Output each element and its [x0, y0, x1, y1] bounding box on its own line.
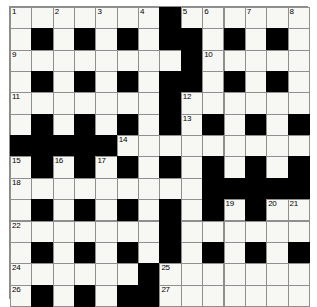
letter-cell[interactable] — [10, 114, 32, 136]
letter-cell[interactable]: 22 — [10, 221, 32, 243]
letter-cell[interactable]: 18 — [10, 178, 32, 200]
letter-cell[interactable] — [245, 263, 267, 285]
letter-cell[interactable] — [266, 156, 288, 178]
crossword-grid[interactable]: 1234567891011121314151617181920212224252… — [10, 7, 309, 300]
letter-cell[interactable] — [117, 7, 139, 29]
letter-cell[interactable] — [117, 221, 139, 243]
letter-cell[interactable]: 16 — [53, 156, 75, 178]
letter-cell[interactable] — [266, 92, 288, 114]
letter-cell[interactable] — [181, 199, 203, 221]
letter-cell[interactable] — [181, 263, 203, 285]
letter-cell[interactable] — [95, 221, 117, 243]
letter-cell[interactable] — [10, 242, 32, 264]
letter-cell[interactable] — [202, 28, 224, 50]
letter-cell[interactable]: 14 — [117, 135, 139, 157]
letter-cell[interactable] — [138, 71, 160, 93]
letter-cell[interactable] — [95, 28, 117, 50]
letter-cell[interactable] — [181, 285, 203, 307]
letter-cell[interactable] — [53, 50, 75, 72]
letter-cell[interactable]: 3 — [95, 7, 117, 29]
letter-cell[interactable]: 17 — [95, 156, 117, 178]
letter-cell[interactable] — [224, 156, 246, 178]
letter-cell[interactable] — [53, 92, 75, 114]
letter-cell[interactable]: 11 — [10, 92, 32, 114]
letter-cell[interactable] — [245, 28, 267, 50]
letter-cell[interactable] — [74, 7, 96, 29]
letter-cell[interactable]: 6 — [202, 7, 224, 29]
letter-cell[interactable]: 20 — [266, 199, 288, 221]
letter-cell[interactable]: 27 — [159, 285, 181, 307]
letter-cell[interactable] — [266, 221, 288, 243]
letter-cell[interactable] — [224, 92, 246, 114]
letter-cell[interactable] — [10, 71, 32, 93]
letter-cell[interactable] — [224, 135, 246, 157]
letter-cell[interactable]: 4 — [138, 7, 160, 29]
letter-cell[interactable] — [53, 114, 75, 136]
letter-cell[interactable] — [95, 199, 117, 221]
letter-cell[interactable]: 21 — [288, 199, 310, 221]
letter-cell[interactable]: 10 — [202, 50, 224, 72]
letter-cell[interactable] — [31, 50, 53, 72]
letter-cell[interactable] — [245, 285, 267, 307]
letter-cell[interactable] — [138, 221, 160, 243]
letter-cell[interactable] — [245, 221, 267, 243]
letter-cell[interactable]: 7 — [245, 7, 267, 29]
letter-cell[interactable] — [31, 263, 53, 285]
letter-cell[interactable] — [53, 178, 75, 200]
letter-cell[interactable] — [224, 285, 246, 307]
letter-cell[interactable]: 24 — [10, 263, 32, 285]
letter-cell[interactable] — [288, 263, 310, 285]
letter-cell[interactable] — [224, 263, 246, 285]
letter-cell[interactable] — [138, 28, 160, 50]
letter-cell[interactable] — [138, 242, 160, 264]
letter-cell[interactable] — [266, 7, 288, 29]
letter-cell[interactable] — [31, 221, 53, 243]
letter-cell[interactable] — [159, 178, 181, 200]
letter-cell[interactable] — [117, 263, 139, 285]
letter-cell[interactable] — [266, 242, 288, 264]
letter-cell[interactable] — [74, 178, 96, 200]
letter-cell[interactable]: 26 — [10, 285, 32, 307]
letter-cell[interactable] — [202, 263, 224, 285]
letter-cell[interactable]: 5 — [181, 7, 203, 29]
letter-cell[interactable]: 8 — [288, 7, 310, 29]
letter-cell[interactable] — [31, 92, 53, 114]
letter-cell[interactable] — [74, 263, 96, 285]
letter-cell[interactable] — [95, 263, 117, 285]
letter-cell[interactable] — [202, 221, 224, 243]
letter-cell[interactable] — [53, 263, 75, 285]
letter-cell[interactable]: 13 — [181, 114, 203, 136]
letter-cell[interactable] — [224, 242, 246, 264]
letter-cell[interactable] — [74, 221, 96, 243]
letter-cell[interactable] — [266, 50, 288, 72]
letter-cell[interactable] — [288, 221, 310, 243]
letter-cell[interactable] — [53, 242, 75, 264]
letter-cell[interactable] — [138, 178, 160, 200]
letter-cell[interactable] — [224, 221, 246, 243]
letter-cell[interactable]: 25 — [159, 263, 181, 285]
letter-cell[interactable] — [95, 178, 117, 200]
letter-cell[interactable] — [202, 92, 224, 114]
letter-cell[interactable] — [288, 50, 310, 72]
letter-cell[interactable] — [181, 178, 203, 200]
letter-cell[interactable] — [224, 114, 246, 136]
letter-cell[interactable] — [10, 199, 32, 221]
letter-cell[interactable]: 9 — [10, 50, 32, 72]
letter-cell[interactable] — [245, 50, 267, 72]
letter-cell[interactable] — [288, 135, 310, 157]
letter-cell[interactable] — [266, 285, 288, 307]
letter-cell[interactable] — [138, 50, 160, 72]
letter-cell[interactable] — [266, 114, 288, 136]
letter-cell[interactable] — [138, 156, 160, 178]
letter-cell[interactable] — [181, 156, 203, 178]
letter-cell[interactable] — [74, 50, 96, 72]
letter-cell[interactable] — [288, 28, 310, 50]
letter-cell[interactable]: 1 — [10, 7, 32, 29]
letter-cell[interactable] — [138, 199, 160, 221]
letter-cell[interactable] — [288, 71, 310, 93]
letter-cell[interactable] — [31, 178, 53, 200]
letter-cell[interactable] — [138, 135, 160, 157]
letter-cell[interactable] — [181, 221, 203, 243]
letter-cell[interactable] — [245, 135, 267, 157]
letter-cell[interactable] — [288, 285, 310, 307]
